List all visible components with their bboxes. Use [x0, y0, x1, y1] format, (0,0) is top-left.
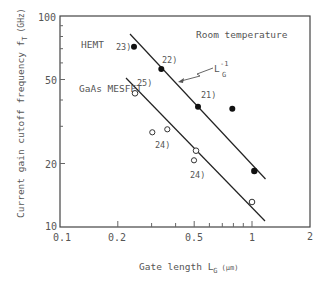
x-axis-label: Gate length LG(μm)	[139, 261, 238, 275]
slope-arrow-head-icon	[178, 78, 184, 83]
room-temperature-label: Room temperature	[196, 29, 288, 40]
y-tick-20: 20	[45, 159, 57, 170]
mesfet-point-6	[249, 199, 255, 205]
fT-vs-gate-length-chart: 100 50 20 10 0.1 0.2 0.5 1 2 Gate length…	[0, 0, 332, 283]
y-tick-10: 10	[45, 221, 57, 232]
y-axis-label: Current gain cutoff frequency fT(GHz)	[15, 8, 29, 218]
mesfet-point-24b	[165, 127, 170, 132]
y-tick-100: 100	[38, 12, 56, 23]
hemt-point-21	[195, 104, 201, 110]
mesfet-point-4	[193, 148, 199, 154]
x-tick-2: 2	[307, 231, 313, 242]
hemt-point-22	[158, 66, 164, 72]
ref-22-label: 22)	[162, 55, 177, 65]
slope-subscript: G	[222, 71, 226, 79]
hemt-point-5	[251, 168, 257, 174]
x-tick-0.1: 0.1	[53, 232, 71, 243]
hemt-label: HEMT	[81, 39, 104, 50]
y-tick-50: 50	[45, 75, 57, 86]
x-tick-1: 1	[249, 232, 255, 243]
x-tick-0.2: 0.2	[108, 232, 126, 243]
ref-21-label: 21)	[201, 90, 216, 100]
hemt-points	[131, 44, 258, 175]
mesfet-point-24a	[150, 130, 155, 135]
ref-25-label: 25)	[137, 78, 152, 88]
x-tick-0.5: 0.5	[185, 232, 203, 243]
mesfet-point-24c	[191, 158, 196, 163]
ref-24-label-b: 24)	[190, 170, 205, 180]
slope-leader-line	[181, 68, 213, 81]
x-axis-ticks	[118, 221, 252, 227]
ref-24-label-a: 24)	[155, 140, 170, 150]
y-axis-ticks	[60, 26, 65, 164]
mesfet-point-25	[132, 91, 138, 97]
slope-superscript: -1	[220, 60, 228, 68]
ref-23-label: 23)	[116, 42, 131, 52]
hemt-point-4	[229, 106, 235, 112]
hemt-point-23	[131, 44, 137, 50]
